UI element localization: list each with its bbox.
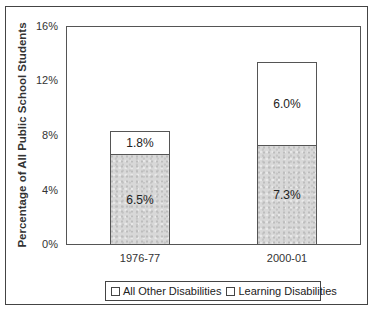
bar-value-label: 7.3% (258, 188, 316, 202)
y-tick-0: 0% (42, 238, 58, 250)
bar-value-label: 6.0% (258, 97, 316, 111)
y-tick-16: 16% (36, 20, 58, 32)
legend-label: All Other Disabilities (123, 285, 221, 297)
x-tick-1976-77: 1976-77 (120, 252, 160, 264)
legend-label: Learning Disabilities (238, 285, 336, 297)
y-tick-8: 8% (42, 129, 58, 141)
bar-value-label: 6.5% (111, 193, 169, 207)
legend-item-learning: Learning Disabilities (226, 285, 336, 297)
bar-2000-learning-disabilities: 7.3% (257, 145, 317, 245)
y-tick-12: 12% (36, 74, 58, 86)
x-tick-2000-01: 2000-01 (267, 252, 307, 264)
bar-1976-all-other-disabilities: 1.8% (110, 131, 170, 154)
y-tick-4: 4% (42, 184, 58, 196)
legend-item-all-other: All Other Disabilities (111, 285, 221, 297)
legend: All Other Disabilities Learning Disabili… (105, 281, 321, 301)
legend-swatch-icon (111, 287, 120, 296)
y-axis-label: Percentage of All Public School Students (16, 22, 28, 247)
bar-1976-learning-disabilities: 6.5% (110, 154, 170, 245)
bar-2000-all-other-disabilities: 6.0% (257, 62, 317, 145)
legend-swatch-icon (226, 287, 235, 296)
bar-value-label: 1.8% (111, 136, 169, 150)
